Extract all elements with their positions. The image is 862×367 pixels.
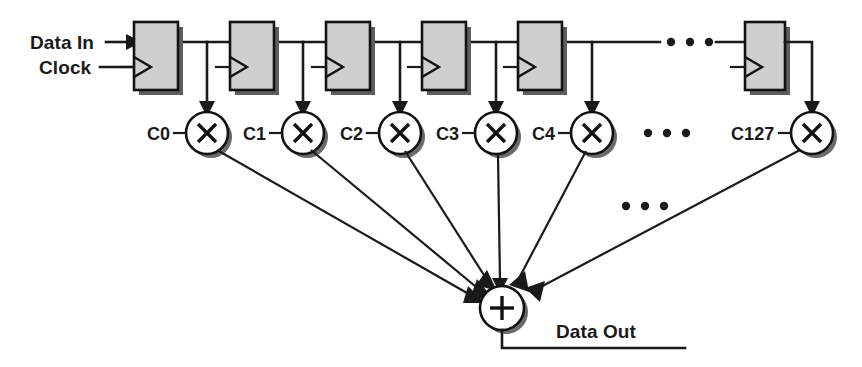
coefficient-label-c127: C127 xyxy=(731,125,774,143)
multiplier-c1 xyxy=(270,112,328,158)
fanin-c0 xyxy=(217,150,485,303)
coefficient-label-c4: C4 xyxy=(532,125,555,143)
fanin-c2 xyxy=(405,151,497,291)
data-out-label: Data Out xyxy=(556,322,636,341)
coefficient-label-c3: C3 xyxy=(436,125,459,143)
register-1 xyxy=(216,22,279,95)
tap-branch-4 xyxy=(584,42,600,117)
tap-branch-3 xyxy=(488,42,504,117)
coefficient-label-c2: C2 xyxy=(340,125,363,143)
multiplier-row-ellipsis xyxy=(644,129,690,137)
fanin-ellipsis xyxy=(622,202,668,210)
tap-branch-1 xyxy=(295,42,311,117)
coefficient-label-c1: C1 xyxy=(243,125,266,143)
register-4 xyxy=(504,22,567,95)
data-in-label: Data In xyxy=(30,33,94,52)
delay-line-ellipsis xyxy=(667,38,713,46)
fanin-c3 xyxy=(492,154,508,294)
multiplier-c0 xyxy=(174,112,232,158)
tap-branch-0 xyxy=(199,42,215,117)
fanin-c127 xyxy=(525,150,800,302)
fir-filter-canvas xyxy=(0,0,862,367)
tap-branch-2 xyxy=(392,42,408,117)
multiplier-c4 xyxy=(559,112,617,158)
fir-filter-diagram: Data In Clock C0 C1 C2 C3 C4 C127 Data O… xyxy=(0,0,862,367)
clock-label: Clock xyxy=(39,58,91,77)
adder-node xyxy=(480,286,528,334)
multiplier-c2 xyxy=(367,112,425,158)
register-127 xyxy=(731,22,820,117)
fanin-c4 xyxy=(509,151,586,292)
multiplier-c127 xyxy=(779,112,837,158)
register-0 xyxy=(120,22,183,95)
coefficient-label-c0: C0 xyxy=(147,125,170,143)
multiplier-c3 xyxy=(463,112,521,158)
fanin-c1 xyxy=(311,150,492,299)
register-2 xyxy=(312,22,375,95)
register-3 xyxy=(408,22,471,95)
